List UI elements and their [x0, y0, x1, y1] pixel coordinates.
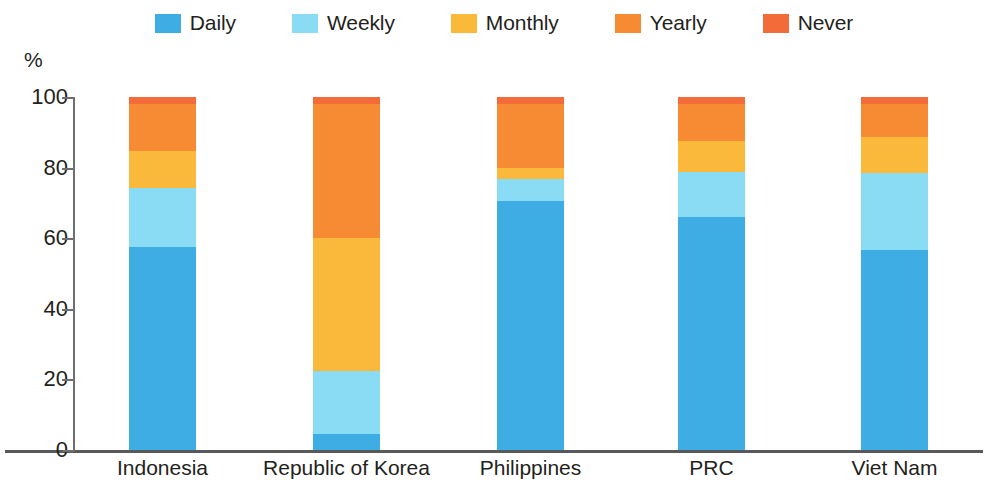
bar-segment-monthly[interactable]: [861, 137, 928, 174]
bar-segment-daily[interactable]: [497, 201, 564, 450]
bar-group[interactable]: [313, 97, 380, 486]
bar-segment-never[interactable]: [861, 97, 928, 104]
bar-segment-monthly[interactable]: [313, 238, 380, 370]
bar-segment-monthly[interactable]: [129, 151, 196, 188]
bar-segment-weekly[interactable]: [861, 173, 928, 250]
bar-group[interactable]: [497, 97, 564, 486]
bar-group[interactable]: [678, 97, 745, 486]
bar-segment-weekly[interactable]: [129, 188, 196, 248]
stacked-bar[interactable]: [313, 97, 380, 450]
bar-series-container: IndonesiaRepublic of KoreaPhilippinesPRC…: [0, 0, 988, 486]
bar-segment-yearly[interactable]: [129, 104, 196, 151]
x-axis-category-label: Viet Nam: [755, 456, 988, 480]
bar-segment-never[interactable]: [129, 97, 196, 104]
stacked-bar[interactable]: [129, 97, 196, 450]
bar-segment-yearly[interactable]: [313, 104, 380, 238]
bar-segment-yearly[interactable]: [678, 104, 745, 141]
stacked-bar[interactable]: [861, 97, 928, 450]
bar-segment-weekly[interactable]: [678, 172, 745, 217]
stacked-bar[interactable]: [678, 97, 745, 450]
bar-segment-never[interactable]: [313, 97, 380, 104]
bar-segment-monthly[interactable]: [497, 168, 564, 179]
bar-segment-daily[interactable]: [678, 217, 745, 450]
bar-segment-daily[interactable]: [129, 247, 196, 450]
bar-group[interactable]: [861, 97, 928, 486]
bar-segment-weekly[interactable]: [313, 371, 380, 435]
bar-segment-weekly[interactable]: [497, 179, 564, 201]
stacked-bar[interactable]: [497, 97, 564, 450]
bar-segment-daily[interactable]: [861, 250, 928, 450]
bar-segment-yearly[interactable]: [861, 104, 928, 137]
bar-segment-daily[interactable]: [313, 434, 380, 450]
bar-group[interactable]: [129, 97, 196, 486]
bar-segment-never[interactable]: [497, 97, 564, 104]
bar-segment-never[interactable]: [678, 97, 745, 104]
chart-plot-area: % 100806040200 IndonesiaRepublic of Kore…: [0, 0, 988, 486]
bar-segment-yearly[interactable]: [497, 104, 564, 168]
bar-segment-monthly[interactable]: [678, 141, 745, 172]
